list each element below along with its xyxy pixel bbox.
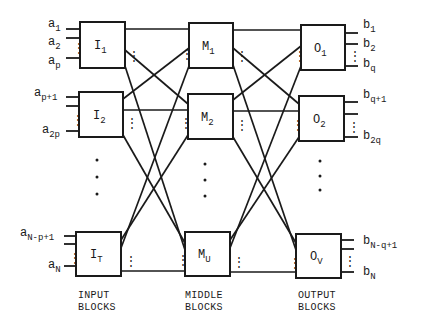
input-blocks-caption-line1: INPUT <box>78 290 110 301</box>
ellipsis-icon: ⋮ <box>73 42 85 56</box>
middle-block-U: MU ⋮ ⋮ <box>177 232 245 276</box>
output-column-ellipsis <box>319 160 322 192</box>
ellipsis-icon: ⋮ <box>294 50 306 64</box>
output-label-bN: bN <box>363 265 376 282</box>
ellipsis-icon: ⋮ <box>349 50 361 64</box>
ellipsis-icon: ⋮ <box>69 252 81 266</box>
input-block-T: IT ⋮ ⋮ aN-p+1 aN <box>20 226 137 276</box>
ellipsis-icon: ⋮ <box>125 255 137 269</box>
input-label-ap1: ap+1 <box>34 86 57 103</box>
ellipsis-icon: ⋮ <box>348 121 360 135</box>
link-mu-o2 <box>230 137 299 240</box>
output-label-b2: b2 <box>363 37 376 54</box>
output-label-bq1: bq+1 <box>363 88 386 105</box>
middle-blocks-caption-line2: BLOCKS <box>185 302 223 313</box>
ellipsis-icon: ⋮ <box>289 257 301 271</box>
input-label-a2: a2 <box>48 35 61 52</box>
input-block-2: I2 ⋮ ⋮ ap+1 a2p <box>34 86 138 140</box>
link-it-m2 <box>121 135 188 240</box>
input-label-a2p: a2p <box>42 123 60 140</box>
ellipsis-icon: ⋮ <box>233 256 245 270</box>
ellipsis-icon: ⋮ <box>236 119 248 133</box>
output-blocks-caption-line1: OUTPUT <box>298 290 336 301</box>
ellipsis-icon: ⋮ <box>236 50 248 64</box>
middle-blocks-caption-line1: MIDDLE <box>185 290 223 301</box>
output-label-b1: b1 <box>363 18 376 35</box>
ellipsis-icon: ⋮ <box>177 254 189 268</box>
output-label-b2q: b2q <box>363 129 381 146</box>
input-to-middle-links <box>121 29 189 271</box>
input-label-aN: aN <box>48 258 61 275</box>
ellipsis-icon: ⋮ <box>344 255 356 269</box>
output-label-bNq1: bN-q+1 <box>363 234 397 251</box>
ellipsis-icon: ⋮ <box>128 50 140 64</box>
output-label-bq: bq <box>363 57 376 74</box>
input-column-ellipsis <box>96 159 99 196</box>
ellipsis-icon: ⋮ <box>72 114 84 128</box>
input-block-1: I1 ⋮ ⋮ a1 a2 ap <box>48 17 140 71</box>
middle-to-output-links <box>230 30 301 272</box>
input-label-ap: ap <box>48 54 61 71</box>
output-block-2: O2 ⋮ ⋮ bq+1 b2q <box>292 88 386 146</box>
output-block-V: OV ⋮ ⋮ bN-q+1 bN <box>289 234 397 282</box>
output-block-1: O1 ⋮ ⋮ b1 b2 bq <box>294 18 376 74</box>
output-blocks-caption-line2: BLOCKS <box>298 302 336 313</box>
input-blocks-caption-line2: BLOCKS <box>78 302 116 313</box>
input-label-a1: a1 <box>48 17 61 34</box>
ellipsis-icon: ⋮ <box>126 117 138 131</box>
ellipsis-icon: ⋮ <box>181 48 193 62</box>
middle-block-2: M2 ⋮ ⋮ <box>180 94 248 139</box>
switching-network-diagram: I1 ⋮ ⋮ a1 a2 ap I2 ⋮ ⋮ ap+1 a2p IT ⋮ ⋮ a… <box>0 0 425 333</box>
ellipsis-icon: ⋮ <box>180 117 192 131</box>
ellipsis-icon: ⋮ <box>292 119 304 133</box>
input-label-aNp1: aN-p+1 <box>20 226 54 243</box>
middle-column-ellipsis <box>204 163 207 198</box>
